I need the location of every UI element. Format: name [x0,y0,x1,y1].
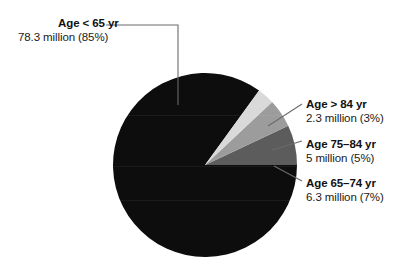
callout-age-75-84-title: Age 75–84 yr [306,137,376,151]
callout-under-65-title: Age < 65 yr [58,16,119,30]
callout-over-84-value: 2.3 million (3%) [306,111,384,125]
callout-under-65-value: 78.3 million (85%) [18,30,119,44]
callout-over-84: Age > 84 yr 2.3 million (3%) [306,97,384,125]
callout-age-75-84: Age 75–84 yr 5 million (5%) [306,137,376,165]
callout-age-75-84-value: 5 million (5%) [306,151,376,165]
callout-over-84-title: Age > 84 yr [306,97,384,111]
callout-under-65: Age < 65 yr 78.3 million (85%) [18,16,119,44]
callout-age-65-74-value: 6.3 million (7%) [306,190,384,204]
callout-age-65-74-title: Age 65–74 yr [306,176,384,190]
callout-age-65-74: Age 65–74 yr 6.3 million (7%) [306,176,384,204]
